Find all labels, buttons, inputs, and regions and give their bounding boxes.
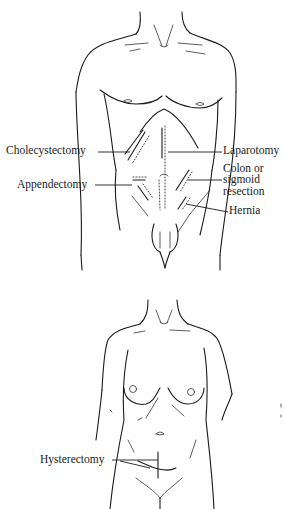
female-torso-drawing (96, 300, 281, 509)
male-torso-drawing (76, 12, 236, 270)
surgical-scar-diagram: Cholecystectomy Appendectomy Laparotomy … (0, 0, 284, 509)
label-laparotomy: Laparotomy (223, 145, 279, 156)
label-hysterectomy: Hysterectomy (40, 454, 105, 465)
label-colon-line2: sigmoid (223, 174, 260, 185)
label-colon-line3: resection (223, 186, 265, 197)
label-cholecystectomy: Cholecystectomy (6, 145, 86, 156)
label-hernia: Hernia (229, 205, 260, 216)
torso-illustrations (0, 0, 284, 509)
label-appendectomy: Appendectomy (17, 179, 87, 190)
